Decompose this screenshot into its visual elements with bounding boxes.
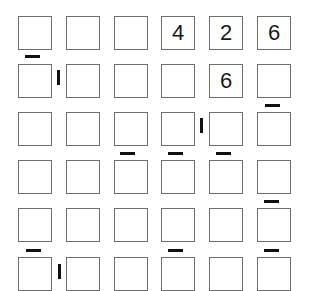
horizontal-constraint-bar <box>25 55 40 58</box>
horizontal-constraint-bar <box>26 249 41 252</box>
grid-cell[interactable] <box>161 160 195 194</box>
grid-cell[interactable] <box>114 64 148 98</box>
grid-cell[interactable] <box>257 112 291 146</box>
grid-cell[interactable] <box>257 208 291 242</box>
grid-cell[interactable] <box>209 208 243 242</box>
grid-cell[interactable] <box>209 257 243 291</box>
horizontal-constraint-bar <box>216 152 231 155</box>
grid-cell[interactable] <box>66 16 100 50</box>
grid-cell-given[interactable]: 4 <box>161 16 195 50</box>
grid-cell[interactable] <box>18 208 52 242</box>
grid-cell[interactable] <box>257 64 291 98</box>
horizontal-constraint-bar <box>168 152 183 155</box>
grid-cell[interactable] <box>66 64 100 98</box>
grid-cell[interactable] <box>257 160 291 194</box>
grid-cell[interactable] <box>66 112 100 146</box>
grid-cell[interactable] <box>114 160 148 194</box>
horizontal-constraint-bar <box>264 200 279 203</box>
grid-cell-given[interactable]: 6 <box>257 16 291 50</box>
grid-cell[interactable] <box>18 16 52 50</box>
grid-cell-given[interactable]: 6 <box>209 64 243 98</box>
horizontal-constraint-bar <box>168 249 183 252</box>
grid-cell[interactable] <box>114 208 148 242</box>
grid-cell[interactable] <box>18 160 52 194</box>
vertical-constraint-bar <box>200 118 203 133</box>
grid-cell[interactable] <box>257 257 291 291</box>
grid-cell[interactable] <box>18 257 52 291</box>
grid-cell-given[interactable]: 2 <box>209 16 243 50</box>
grid-cell[interactable] <box>114 257 148 291</box>
vertical-constraint-bar <box>58 264 61 279</box>
horizontal-constraint-bar <box>120 152 135 155</box>
grid-cell[interactable] <box>161 208 195 242</box>
grid-cell[interactable] <box>18 112 52 146</box>
grid-cell[interactable] <box>114 16 148 50</box>
grid-cell[interactable] <box>209 112 243 146</box>
grid-cell[interactable] <box>66 257 100 291</box>
grid-cell[interactable] <box>114 112 148 146</box>
grid-cell[interactable] <box>161 112 195 146</box>
horizontal-constraint-bar <box>265 104 280 107</box>
grid-cell[interactable] <box>18 64 52 98</box>
grid-cell[interactable] <box>161 64 195 98</box>
grid-cell[interactable] <box>66 208 100 242</box>
vertical-constraint-bar <box>57 70 60 85</box>
grid-cell[interactable] <box>209 160 243 194</box>
grid-cell[interactable] <box>161 257 195 291</box>
grid-cell[interactable] <box>66 160 100 194</box>
horizontal-constraint-bar <box>264 249 279 252</box>
